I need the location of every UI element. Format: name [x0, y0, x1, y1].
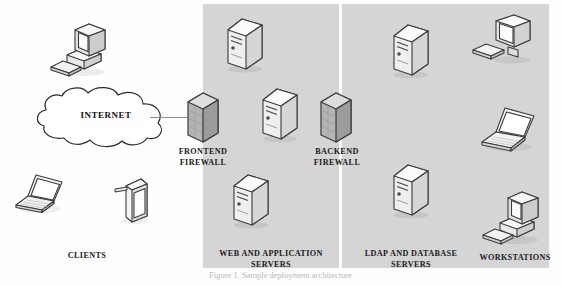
backend-firewall-icon	[318, 90, 354, 146]
workstations-group-label: WORKSTATIONS	[473, 253, 557, 264]
frontend-firewall-label-line2: FIREWALL	[160, 158, 246, 169]
zone-ldap-label-line1: LDAP AND DATABASE	[351, 249, 471, 260]
zone-web-application-servers-label: WEB AND APPLICATION SERVERS	[203, 249, 339, 270]
zone-ldap-label-line2: SERVERS	[351, 260, 471, 271]
zone-web-label-line2: SERVERS	[203, 260, 339, 271]
backend-firewall-label: BACKEND FIREWALL	[295, 147, 379, 168]
figure-caption: Figure 1. Sample deployment architecture	[0, 270, 561, 280]
client-tablet-icon	[113, 176, 153, 226]
frontend-firewall-icon	[185, 90, 221, 146]
workstation-laptop-icon	[478, 105, 540, 155]
workstation-desktop-icon	[478, 188, 544, 248]
web-server-2-icon	[257, 84, 303, 146]
zone-web-label-line1: WEB AND APPLICATION	[203, 249, 339, 260]
client-laptop-icon	[12, 172, 68, 216]
frontend-firewall-label-line1: FRONTEND	[160, 147, 246, 158]
web-server-3-icon	[228, 170, 274, 232]
web-server-1-icon	[222, 14, 268, 76]
frontend-firewall-label: FRONTEND FIREWALL	[160, 147, 246, 168]
backend-firewall-label-line1: BACKEND	[295, 147, 379, 158]
ldap-server-2-icon	[388, 160, 434, 222]
workstation-monitor-icon	[470, 14, 540, 74]
zone-ldap-database-servers-label: LDAP AND DATABASE SERVERS	[351, 249, 471, 270]
internet-label: INTERNET	[30, 110, 182, 120]
clients-group-label: CLIENTS	[22, 251, 152, 262]
network-diagram-canvas: INTERNET	[0, 0, 561, 285]
client-desktop-computer-icon	[47, 22, 111, 80]
ldap-server-1-icon	[388, 20, 434, 82]
backend-firewall-label-line2: FIREWALL	[295, 158, 379, 169]
